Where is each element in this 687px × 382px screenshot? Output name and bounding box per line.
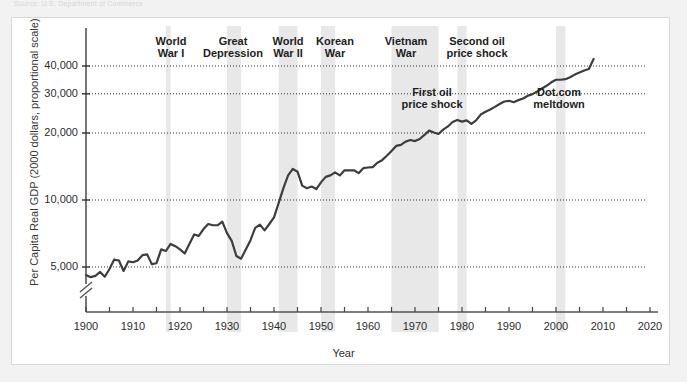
y-tick-label: 10,000 bbox=[26, 194, 78, 205]
y-tick-label: 20,000 bbox=[26, 127, 78, 138]
x-tick-label: 1900 bbox=[63, 320, 109, 332]
x-tick-label: 2020 bbox=[627, 320, 673, 332]
x-tick-label: 2010 bbox=[580, 320, 626, 332]
x-tick-label: 1970 bbox=[392, 320, 438, 332]
x-tick-label: 1910 bbox=[110, 320, 156, 332]
faint-source-note: Source: U.S. Department of Commerce bbox=[14, 0, 414, 14]
event-annotation: Second oil price shock bbox=[427, 35, 527, 59]
x-tick-label: 1990 bbox=[486, 320, 532, 332]
chart-panel bbox=[11, 17, 670, 365]
y-tick-label: 5,000 bbox=[26, 261, 78, 272]
y-tick-label: 40,000 bbox=[26, 60, 78, 71]
x-tick-label: 1960 bbox=[345, 320, 391, 332]
x-tick-label: 1980 bbox=[439, 320, 485, 332]
y-tick-label: 30,000 bbox=[26, 88, 78, 99]
x-axis-title: Year bbox=[0, 347, 687, 359]
x-tick-label: 1920 bbox=[157, 320, 203, 332]
x-tick-label: 2000 bbox=[533, 320, 579, 332]
event-annotation: First oil price shock bbox=[382, 86, 482, 110]
x-tick-label: 1930 bbox=[204, 320, 250, 332]
x-tick-label: 1940 bbox=[251, 320, 297, 332]
x-tick-label: 1950 bbox=[298, 320, 344, 332]
event-annotation: Dot.com meltdown bbox=[509, 86, 609, 110]
